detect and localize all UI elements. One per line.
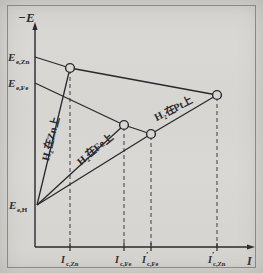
x-tick-prime-Ic-Fe-prime: ′ [146,250,149,260]
curve-h2-on-pt [37,95,217,205]
fe-corrosion-point [120,121,129,130]
x-tick-label-Ic-Zn-prime: I ′ c,Zn [207,250,226,267]
curve-label-h2-on-fe: H₂在Fe上 [74,130,115,167]
y-tick-label-Ee-H: E e,H [8,199,28,214]
evans-diagram: −E E e,Zn E e,Fe E e,H [0,0,263,273]
y-tick-base-Ee-Zn: E [7,51,15,63]
axes [32,22,255,250]
curve-anodic-zn [35,57,217,95]
polarization-curves [35,57,217,205]
x-tick-label-Ic-Fe-prime: I ′ c,Fe [141,250,158,267]
x-tick-sub-Ic-Zn: c,Zn [66,260,79,267]
curve-label-h2-on-pt: H₂在Pt上 [152,93,195,123]
y-tick-sub-Ee-Fe: e,Fe [16,84,28,92]
y-tick-sub-Ee-Zn: e,Zn [16,58,30,66]
x-tick-prime-Ic-Zn-prime: ′ [212,250,215,260]
y-tick-label-Ee-Zn: E e,Zn [7,51,30,66]
x-tick-sub-Ic-Fe-prime: c,Fe [147,260,158,267]
x-tick-label-Ic-Zn: I c,Zn [60,254,79,267]
x-axis-label: I [246,254,253,268]
zn-corrosion-point [66,64,75,73]
y-tick-sub-Ee-H: e,H [17,206,28,214]
intersection-markers [66,64,222,139]
x-tick-sub-Ic-Fe: c,Fe [120,260,131,267]
zn-pt-point [213,91,222,100]
x-axis-arrowhead [247,244,255,249]
y-tick-label-Ee-Fe: E e,Fe [7,77,28,92]
y-tick-base-Ee-Fe: E [7,77,15,89]
y-axis-label: −E [18,10,35,25]
y-tick-base-Ee-H: E [8,199,16,211]
fe-pt-point [147,130,156,139]
x-tick-sub-Ic-Zn-prime: c,Zn [213,260,226,267]
curve-label-h2-on-zn: H₂在Zn上 [39,115,62,162]
x-tick-label-Ic-Fe: I c,Fe [114,254,131,267]
